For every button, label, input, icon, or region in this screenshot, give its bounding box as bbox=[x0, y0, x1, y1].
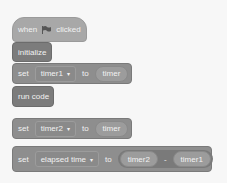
timer2-reporter[interactable]: timer2 bbox=[120, 151, 158, 167]
variable-name: timer1 bbox=[41, 69, 63, 78]
to-keyword: to bbox=[82, 124, 89, 133]
set-keyword: set bbox=[18, 124, 29, 133]
initialize-block[interactable]: initialize bbox=[12, 42, 52, 62]
set-timer1-block[interactable]: set timer1 ▾ to timer bbox=[12, 63, 132, 84]
minus-sign: - bbox=[164, 155, 167, 164]
set-elapsed-time-block[interactable]: set elapsed time ▾ to timer2 - timer1 bbox=[12, 146, 212, 172]
timer-reporter[interactable]: timer bbox=[95, 66, 129, 82]
to-keyword: to bbox=[82, 69, 89, 78]
hat-clicked-text: clicked bbox=[56, 25, 80, 34]
chevron-down-icon: ▾ bbox=[67, 125, 70, 132]
chevron-down-icon: ▾ bbox=[90, 156, 93, 163]
subtract-operator-block[interactable]: timer2 - timer1 bbox=[118, 150, 213, 168]
variable-name: timer2 bbox=[41, 124, 63, 133]
variable-dropdown-timer1[interactable]: timer1 ▾ bbox=[35, 66, 76, 82]
timer-reporter[interactable]: timer bbox=[95, 121, 129, 137]
set-keyword: set bbox=[18, 69, 29, 78]
variable-dropdown-timer2[interactable]: timer2 ▾ bbox=[35, 121, 76, 137]
set-timer2-block[interactable]: set timer2 ▾ to timer bbox=[12, 118, 132, 139]
run-code-label: run code bbox=[18, 92, 49, 101]
variable-name: elapsed time bbox=[41, 155, 86, 164]
initialize-label: initialize bbox=[18, 48, 46, 57]
timer1-reporter[interactable]: timer1 bbox=[173, 151, 211, 167]
chevron-down-icon: ▾ bbox=[67, 70, 70, 77]
to-keyword: to bbox=[105, 155, 112, 164]
run-code-block[interactable]: run code bbox=[12, 86, 54, 107]
when-flag-clicked-block[interactable]: when clicked bbox=[12, 17, 87, 42]
set-keyword: set bbox=[18, 155, 29, 164]
green-flag-icon bbox=[42, 26, 51, 34]
variable-dropdown-elapsed-time[interactable]: elapsed time ▾ bbox=[35, 151, 99, 167]
hat-when-text: when bbox=[18, 25, 37, 34]
